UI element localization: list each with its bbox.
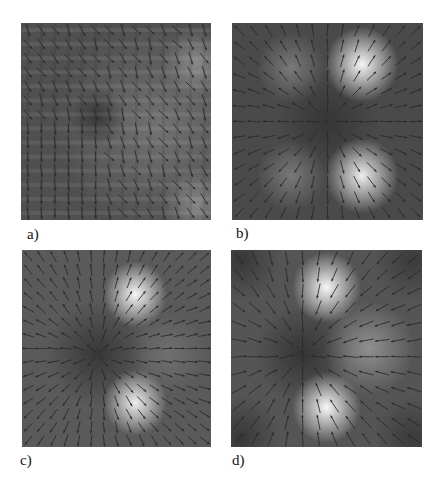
vector-field-c xyxy=(22,250,211,447)
grid-artifact-col xyxy=(67,23,70,220)
grid-artifact-col xyxy=(40,23,43,220)
panel-b xyxy=(232,23,423,220)
grid-artifact-row xyxy=(21,42,211,46)
grid-artifact-col xyxy=(26,23,29,220)
grid-artifact-row xyxy=(21,211,211,215)
vector-field-a xyxy=(21,23,211,220)
grid-artifact-col xyxy=(135,23,138,220)
vector-field-b xyxy=(232,23,423,220)
grid-artifact-row xyxy=(21,155,211,159)
grid-artifact-col xyxy=(189,23,192,220)
panel-c xyxy=(22,250,211,447)
panel-label-c: c) xyxy=(20,453,32,468)
panel-d xyxy=(231,250,422,447)
intensity-blob xyxy=(257,32,326,103)
grid-artifact-row xyxy=(21,169,211,173)
grid-artifact-row xyxy=(21,141,211,145)
grid-artifact-col xyxy=(162,23,165,220)
grid-artifact-col xyxy=(203,23,206,220)
intensity-blob xyxy=(129,312,208,395)
grid-artifact-row xyxy=(21,56,211,60)
intensity-blob xyxy=(325,138,398,214)
panel-label-a: a) xyxy=(27,227,39,242)
grid-artifact-row xyxy=(21,70,211,74)
grid-artifact-col xyxy=(176,23,179,220)
intensity-blob xyxy=(324,301,416,396)
vector-field-d xyxy=(231,250,422,447)
grid-artifact-row xyxy=(21,98,211,102)
grid-artifact-col xyxy=(94,23,97,220)
panel-a xyxy=(21,23,211,220)
grid-artifact-row xyxy=(21,127,211,131)
grid-artifact-col xyxy=(108,23,111,220)
grid-artifact-row xyxy=(21,183,211,187)
grid-artifact-row xyxy=(21,112,211,116)
grid-artifact-row xyxy=(21,84,211,88)
grid-artifact-row xyxy=(21,28,211,32)
grid-artifact-row xyxy=(21,197,211,201)
panel-label-d: d) xyxy=(232,453,245,468)
intensity-blob xyxy=(257,140,326,211)
grid-artifact-col xyxy=(121,23,124,220)
panel-label-b: b) xyxy=(236,226,249,241)
